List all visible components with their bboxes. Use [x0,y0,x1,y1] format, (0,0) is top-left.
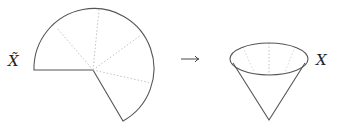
arrow-icon [181,56,199,62]
sector-outline [34,8,154,121]
left-label-x-tilde: X̃ [7,52,20,70]
sector-dotted-rays [57,10,151,83]
unfolded-sector [34,8,154,121]
cone [230,43,308,120]
diagram-canvas: X̃ X [0,0,340,129]
right-label-x: X [315,51,328,69]
